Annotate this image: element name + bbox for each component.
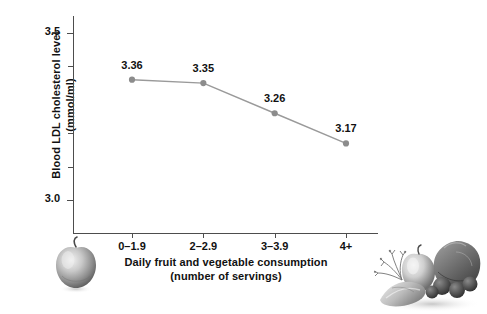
x-axis-title-line-1: Daily fruit and vegetable consumption	[80, 255, 372, 269]
y-axis-title-line-1: Blood LDL cholesterol level	[49, 31, 63, 178]
data-point-marker	[343, 140, 349, 146]
x-axis-tick-label: 2–2.9	[190, 240, 218, 252]
x-axis-title-line-2: (number of servings)	[80, 269, 372, 283]
y-axis-tick-label: 3.5	[45, 25, 60, 37]
data-point-marker	[272, 110, 278, 116]
data-point-label: 3.26	[264, 92, 285, 104]
series-line	[73, 16, 378, 234]
data-point-label: 3.17	[335, 122, 356, 134]
y-axis-tick-label: 3.0	[45, 192, 60, 204]
data-point-marker	[129, 77, 135, 83]
series-markers	[129, 77, 349, 147]
plot-area: 3.53.0 0–1.92–2.93–3.94+ 3.363.353.263.1…	[73, 16, 378, 234]
x-axis-tick-label: 4+	[340, 240, 353, 252]
x-axis-tick-label: 3–3.9	[261, 240, 289, 252]
data-point-label: 3.36	[121, 59, 142, 71]
x-axis-tick-label: 0–1.9	[118, 240, 146, 252]
data-point-marker	[200, 80, 206, 86]
chart-figure: Blood LDL cholesterol level (mmol/ml) Da…	[0, 0, 487, 314]
produce-pile-icon	[372, 228, 487, 314]
x-axis-title: Daily fruit and vegetable consumption (n…	[80, 255, 372, 283]
data-point-label: 3.35	[193, 62, 214, 74]
series-polyline	[132, 80, 346, 144]
